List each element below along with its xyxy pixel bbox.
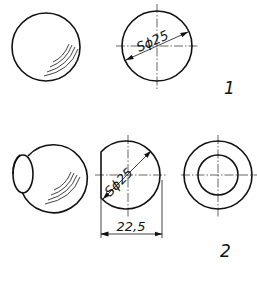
figure-label-1: 1	[224, 78, 235, 98]
diameter-label-2: Sϕ25	[102, 165, 136, 199]
diameter-label-1: Sϕ25	[134, 27, 171, 54]
shading-arcs	[45, 172, 80, 204]
sphere-orthographic-1: Sϕ25	[116, 4, 198, 89]
figure-label-2: 2	[220, 241, 231, 261]
technical-drawing: Sϕ25 1 Sϕ25 22,	[0, 0, 257, 301]
sphere-pictorial-1	[12, 13, 80, 81]
truncated-sphere-side	[181, 135, 257, 217]
figure-2: Sϕ25 22,5 2	[13, 135, 257, 261]
shading-arcs	[44, 44, 78, 76]
truncated-sphere-front: Sϕ25 22,5	[95, 135, 167, 238]
width-label: 22,5	[117, 219, 146, 234]
sphere-pictorial-2	[13, 145, 87, 213]
figure-1: Sϕ25 1	[12, 4, 235, 98]
